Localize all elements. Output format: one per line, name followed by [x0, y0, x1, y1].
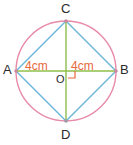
vertex-dot-C — [64, 19, 68, 23]
measure-label-left: 4cm — [25, 60, 48, 72]
vertex-dot-A — [14, 69, 18, 73]
vertex-dot-D — [64, 119, 68, 123]
vertex-label-D: D — [61, 128, 70, 141]
center-label-O: O — [56, 74, 65, 85]
measure-label-right: 4cm — [71, 60, 94, 72]
geometry-figure: A B C D O 4cm 4cm — [0, 0, 133, 145]
vertex-label-C: C — [61, 2, 70, 15]
vertex-label-A: A — [3, 63, 12, 76]
geometry-canvas — [0, 0, 133, 145]
vertex-dot-B — [114, 69, 118, 73]
vertex-label-B: B — [120, 63, 129, 76]
